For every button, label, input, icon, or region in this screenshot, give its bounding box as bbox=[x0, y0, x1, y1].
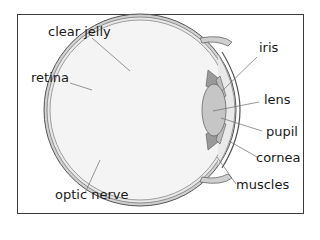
label-pupil: pupil bbox=[266, 125, 298, 138]
label-optic-nerve: optic nerve bbox=[55, 188, 128, 201]
label-iris: iris bbox=[259, 41, 278, 54]
label-retina: retina bbox=[31, 71, 69, 84]
label-clear-jelly: clear jelly bbox=[48, 25, 111, 38]
label-lens: lens bbox=[264, 93, 291, 106]
label-muscles: muscles bbox=[236, 178, 289, 191]
label-cornea: cornea bbox=[256, 151, 300, 164]
